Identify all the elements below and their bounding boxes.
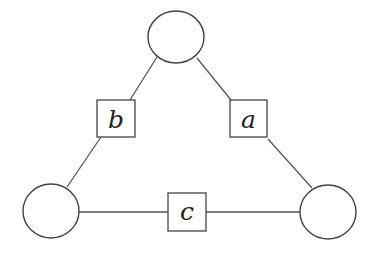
node-bottom-right bbox=[300, 185, 356, 239]
edge-a-upper-segment bbox=[197, 58, 231, 100]
node-top bbox=[148, 11, 204, 63]
triangle-graph-diagram: b a c bbox=[0, 0, 375, 260]
edge-label-a: a bbox=[230, 100, 267, 137]
edge-a-lower-segment bbox=[268, 139, 312, 188]
edge-label-b: b bbox=[97, 100, 135, 137]
label-text-c: c bbox=[180, 197, 194, 226]
label-text-b: b bbox=[108, 105, 124, 134]
edge-label-c: c bbox=[168, 193, 206, 231]
edge-b-upper-segment bbox=[130, 57, 157, 100]
label-text-a: a bbox=[241, 105, 256, 134]
node-bottom-left bbox=[23, 184, 79, 238]
edge-b-lower-segment bbox=[67, 137, 101, 187]
